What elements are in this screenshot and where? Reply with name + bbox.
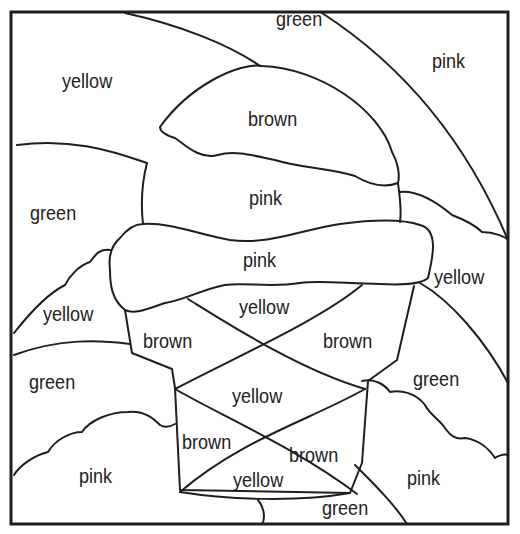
region-label-sky-top-left: yellow — [62, 70, 112, 91]
outer-arc-line — [322, 13, 508, 240]
left-lower-arc-line — [14, 341, 130, 355]
left-arc-line — [17, 143, 147, 163]
region-label-cone-bottom-center: yellow — [233, 469, 283, 490]
right-lower-cloud — [362, 380, 508, 458]
coloring-page: yellow green pink brown pink green pink … — [0, 0, 520, 534]
region-label-scoop-middle: pink — [249, 187, 282, 208]
region-label-cone-middle-center: yellow — [232, 385, 282, 406]
region-label-cloud-left-top: yellow — [43, 303, 93, 324]
region-label-scoop-top: brown — [248, 108, 297, 129]
region-label-scoop-bottom: pink — [243, 249, 276, 270]
region-label-sky-top-right: pink — [432, 50, 465, 71]
region-label-cloud-bottom-left: pink — [79, 465, 112, 486]
region-label-arc-lower-left: green — [29, 371, 75, 392]
region-label-cone-upper-right: brown — [323, 330, 372, 351]
region-label-cloud-bottom-right: pink — [407, 467, 440, 488]
region-label-cone-upper-center: yellow — [239, 296, 289, 317]
region-label-arc-bottom: green — [322, 497, 368, 518]
region-label-arc-top: green — [276, 8, 322, 29]
top-arc-line — [125, 13, 260, 66]
region-label-cloud-right-top: yellow — [434, 266, 484, 287]
region-label-arc-lower-right: green — [413, 368, 459, 389]
scoop-middle-edge — [398, 183, 401, 222]
right-cloud-top — [400, 192, 508, 240]
region-label-arc-left: green — [30, 202, 76, 223]
region-label-cone-lower-left: brown — [182, 431, 231, 452]
region-label-cone-lower-right: brown — [289, 444, 338, 465]
bottom-small-arc-line — [258, 500, 264, 524]
region-label-cone-upper-left: brown — [143, 330, 192, 351]
